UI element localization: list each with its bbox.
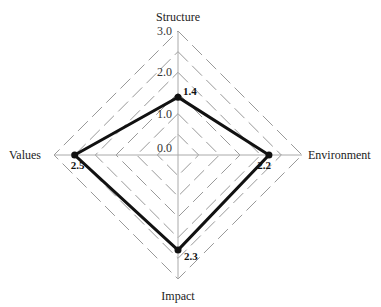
axis-label-structure: Structure [156, 10, 200, 24]
value-label: 1.4 [183, 85, 197, 97]
data-point [265, 152, 272, 159]
value-label: 2.5 [71, 159, 85, 171]
value-label: 2.2 [257, 159, 271, 171]
data-point [175, 247, 182, 254]
value-label: 2.3 [184, 250, 198, 262]
tick-label: 3.0 [157, 24, 172, 38]
axis-label-impact: Impact [161, 289, 195, 303]
tick-label: 2.0 [157, 65, 172, 79]
radar-chart: 0.01.02.03.0 1.42.22.32.5 StructureEnvir… [0, 0, 381, 307]
data-point [71, 152, 78, 159]
axis-label-environment: Environment [308, 148, 371, 162]
axis-label-values: Values [9, 148, 41, 162]
tick-label: 0.0 [157, 141, 172, 155]
axes [54, 31, 302, 279]
tick-labels: 0.01.02.03.0 [157, 24, 172, 155]
data-point [175, 94, 182, 101]
